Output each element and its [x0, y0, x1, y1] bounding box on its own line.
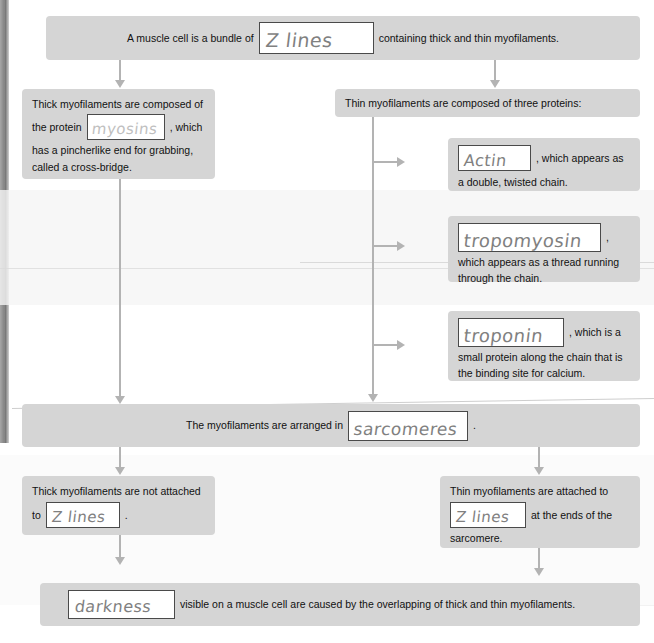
thin-attached-box: Thin myofilaments are attached to Z line… — [440, 476, 640, 548]
handwritten-answer-intro: Z lines — [258, 23, 375, 55]
connector-branch-actin — [372, 161, 399, 163]
connector-thin-to-darkness — [538, 548, 540, 570]
connector-sarcomeres-to-thin-attached — [538, 447, 540, 469]
darkness-text-after: visible on a muscle cell are caused by t… — [180, 596, 575, 612]
connector-thin-spine — [372, 117, 374, 346]
handwritten-answer-thin-z-lines: Z lines — [449, 503, 526, 529]
tropomyosin-box: tropomyosin , which appears as a thread … — [448, 216, 640, 282]
thin-attached-line-3: sarcomere. — [450, 530, 630, 546]
blank-field-actin[interactable]: Actin — [458, 145, 531, 171]
handwritten-answer-sarcomeres: sarcomeres — [347, 412, 469, 442]
thick-line-2-after: , which — [170, 119, 203, 135]
arrow-down-icon-darkness-right — [534, 568, 544, 576]
thick-line-1: Thick myofilaments are composed of — [32, 96, 205, 112]
tropomyosin-line-2: which appears as a thread running — [458, 254, 630, 270]
tropomyosin-line-3: through the chain. — [458, 270, 630, 286]
arrow-down-icon-sarcomeres-left — [115, 467, 125, 475]
actin-text-after: , which appears as — [536, 150, 624, 166]
blank-field-thin-z-lines[interactable]: Z lines — [450, 502, 526, 528]
thick-line-2-before: the protein — [32, 119, 82, 135]
thick-not-attached-line-1: Thick myofilaments are not attached — [32, 483, 205, 499]
intro-text-before: A muscle cell is a bundle of — [127, 30, 254, 46]
troponin-box: troponin , which is a small protein alon… — [448, 311, 640, 381]
handwritten-answer-myosins: myosins — [86, 115, 165, 141]
thin-myofilaments-header-box: Thin myofilaments are composed of three … — [335, 89, 640, 117]
thick-not-attached-line-2-before: to — [32, 507, 41, 523]
troponin-line-2: small protein along the chain that is — [458, 349, 630, 365]
actin-line-2: a double, twisted chain. — [458, 174, 630, 190]
thin-attached-line-1: Thin myofilaments are attached to — [450, 483, 630, 499]
blank-field-tropomyosin[interactable]: tropomyosin — [458, 223, 601, 252]
troponin-text-after: , which is a — [569, 324, 621, 340]
thick-line-4: called a cross-bridge. — [32, 159, 205, 175]
handwritten-answer-darkness: darkness — [67, 591, 176, 620]
connector-branch-tropomyosin — [372, 245, 399, 247]
connector-branch-troponin — [372, 344, 399, 346]
blank-field-intro[interactable]: Z lines — [259, 22, 374, 54]
sarcomeres-box: The myofilaments are arranged in sarcome… — [22, 404, 640, 447]
arrow-down-icon-darkness-left — [115, 557, 125, 565]
connector-thick-to-darkness — [119, 535, 121, 559]
arrow-down-icon-intro-thin — [490, 80, 500, 88]
blank-field-thick-z-lines[interactable]: Z lines — [46, 502, 120, 528]
connector-intro-to-thick — [119, 60, 121, 82]
connector-thick-to-sarcomeres — [119, 179, 121, 399]
thin-header-text: Thin myofilaments are composed of three … — [335, 95, 640, 111]
handwritten-answer-thick-z-lines: Z lines — [45, 503, 120, 529]
arrow-right-icon-actin — [397, 157, 405, 167]
tropomyosin-text-after: , — [606, 229, 609, 245]
blank-field-myosins[interactable]: myosins — [87, 114, 165, 140]
sarcomeres-text-before: The myofilaments are arranged in — [186, 417, 343, 433]
sarcomeres-text-after: . — [473, 417, 476, 433]
arrow-down-icon-intro-thick — [115, 80, 125, 88]
connector-intro-to-thin — [494, 60, 496, 82]
connector-thin-to-sarcomeres — [372, 346, 374, 396]
arrow-down-icon-thin-sarcomeres — [368, 394, 378, 402]
thick-not-attached-box: Thick myofilaments are not attached to Z… — [22, 476, 215, 535]
intro-text-after: containing thick and thin myofilaments. — [379, 30, 559, 46]
blank-field-sarcomeres[interactable]: sarcomeres — [348, 411, 468, 441]
arrow-down-icon-sarcomeres-right — [534, 467, 544, 475]
arrow-right-icon-tropomyosin — [397, 241, 405, 251]
troponin-line-3: the binding site for calcium. — [458, 365, 630, 381]
thin-attached-line-2-after: at the ends of the — [531, 507, 612, 523]
handwritten-answer-troponin: troponin — [457, 319, 565, 350]
thick-not-attached-line-2-after: . — [125, 507, 128, 523]
thick-myofilaments-box: Thick myofilaments are composed of the p… — [22, 89, 215, 179]
arrow-down-icon-thick-sarcomeres — [115, 396, 125, 404]
thick-line-3: has a pincherlike end for grabbing, — [32, 142, 205, 158]
intro-statement-box: A muscle cell is a bundle of Z lines con… — [46, 16, 640, 60]
darkness-box: darkness visible on a muscle cell are ca… — [40, 583, 640, 626]
handwritten-answer-actin: Actin — [457, 146, 531, 174]
blank-field-troponin[interactable]: troponin — [458, 318, 564, 347]
arrow-right-icon-troponin — [397, 340, 405, 350]
handwritten-answer-tropomyosin: tropomyosin — [457, 224, 602, 255]
actin-box: Actin , which appears as a double, twist… — [448, 138, 640, 191]
connector-sarcomeres-to-thick-not-attached — [119, 447, 121, 469]
blank-field-darkness[interactable]: darkness — [68, 590, 175, 619]
